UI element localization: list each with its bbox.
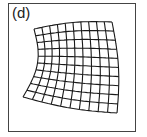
grid-line bbox=[36, 31, 114, 36]
grid-line bbox=[38, 63, 119, 68]
grid-line bbox=[37, 39, 115, 42]
warped-grid-mesh bbox=[0, 0, 147, 137]
grid-line bbox=[23, 29, 38, 97]
grid-line bbox=[36, 70, 119, 77]
grid-line bbox=[38, 48, 117, 49]
grid-line bbox=[34, 77, 119, 86]
grid-line bbox=[38, 56, 118, 58]
